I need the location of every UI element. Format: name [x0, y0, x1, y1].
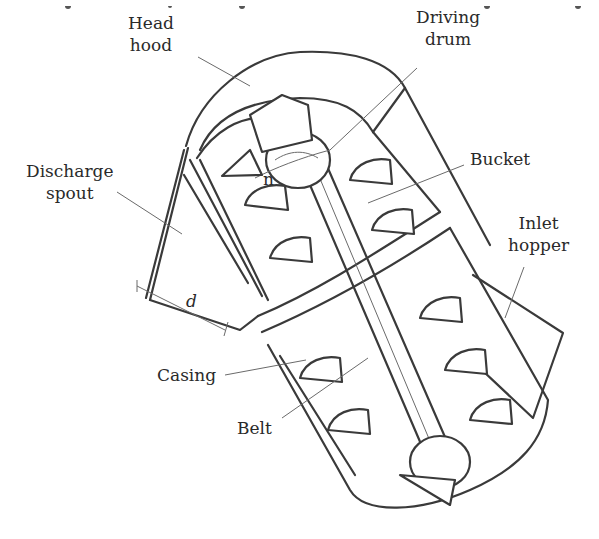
inlet-hopper-outline [466, 275, 563, 418]
head-hood-outline [186, 52, 490, 245]
label-bucket: Bucket [470, 148, 530, 170]
label-casing: Casing [157, 364, 216, 386]
label-line: spout [26, 182, 113, 204]
discharge-spout-outline [150, 300, 258, 330]
label-line: Casing [157, 364, 216, 386]
dimension-line-d [137, 286, 225, 330]
label-line: drum [416, 28, 480, 50]
label-belt: Belt [237, 417, 272, 439]
label-discharge-spout: Discharge spout [26, 160, 113, 204]
label-head-hood: Head hood [128, 12, 174, 56]
label-line: Head [128, 12, 174, 34]
symbol-spout-width-d: d [186, 290, 197, 312]
label-line: Belt [237, 417, 272, 439]
symbol-rotation-n: n [263, 168, 274, 190]
label-line: hopper [508, 234, 569, 256]
label-line: Driving [416, 6, 480, 28]
label-line: Discharge [26, 160, 113, 182]
label-driving-drum: Driving drum [416, 6, 480, 50]
label-inlet-hopper: Inlet hopper [508, 212, 569, 256]
elevator-body [137, 52, 563, 508]
label-line: hood [128, 34, 174, 56]
bucket-elevator-diagram [0, 0, 599, 539]
label-line: Inlet [508, 212, 569, 234]
label-line: Bucket [470, 148, 530, 170]
